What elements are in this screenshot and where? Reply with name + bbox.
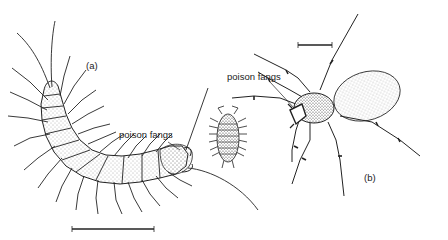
centipede: [8, 21, 258, 214]
spider: [232, 14, 420, 196]
panel-label-b: (b): [364, 173, 376, 183]
illustration: [0, 0, 448, 240]
woodlouse-body: [217, 114, 239, 162]
centipede-antenna-rear: [186, 88, 208, 150]
spider-abdomen: [327, 63, 407, 130]
panel-label-a: (a): [86, 61, 98, 71]
woodlouse: [209, 106, 247, 168]
centipede-head: [160, 144, 192, 174]
spider-fangs-label: poison fangs: [227, 72, 281, 82]
centipede-tail: [188, 168, 258, 210]
centipede-antennae: [17, 21, 55, 88]
centipede-fangs-label: poison fangs: [119, 130, 173, 140]
